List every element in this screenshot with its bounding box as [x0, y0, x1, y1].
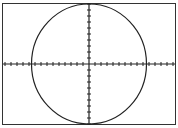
plot-area: [0, 0, 178, 128]
graph-screen: [0, 0, 178, 128]
